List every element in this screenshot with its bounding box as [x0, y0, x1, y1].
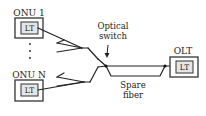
olt: OLT LT — [170, 46, 198, 77]
spare-fiber-annotation: Spare fiber — [120, 80, 145, 100]
pon-protection-diagram: ONU 1 LT ONU N LT — [0, 0, 206, 116]
spare-label-line1: Spare — [120, 80, 145, 90]
dot — [29, 50, 31, 52]
splitter-branch — [57, 40, 64, 43]
dot — [29, 43, 31, 45]
splitter-branch — [57, 77, 84, 82]
onu-n-lt-label: LT — [25, 86, 34, 95]
splitter-branch — [57, 82, 84, 86]
dot — [29, 57, 31, 59]
fiber-to-switch — [90, 67, 98, 82]
olt-node — [163, 64, 166, 67]
fiber-to-switch — [88, 48, 98, 59]
ellipsis-dots — [29, 43, 31, 59]
olt-lt-label: LT — [180, 63, 189, 72]
splitter-branch — [57, 48, 82, 52]
olt-label: OLT — [174, 46, 193, 56]
switch-label-line1: Optical — [97, 21, 128, 31]
onu-1-label: ONU 1 — [13, 8, 44, 18]
onu-n-label: ONU N — [12, 70, 46, 80]
spare-fiber — [106, 66, 165, 76]
switch-label-line2: switch — [99, 31, 128, 41]
onu-1: ONU 1 LT — [13, 8, 44, 38]
optical-switch-node — [104, 64, 107, 67]
splitter-branch — [57, 43, 82, 48]
arrowhead-icon — [105, 53, 110, 58]
splitter-branch — [57, 73, 64, 77]
spare-label-line2: fiber — [123, 90, 144, 100]
optical-switch-annotation: Optical switch — [97, 21, 128, 58]
onu-n: ONU N LT — [12, 70, 46, 101]
fiber-onu1 — [38, 28, 82, 48]
onu-1-lt-label: LT — [25, 24, 34, 33]
